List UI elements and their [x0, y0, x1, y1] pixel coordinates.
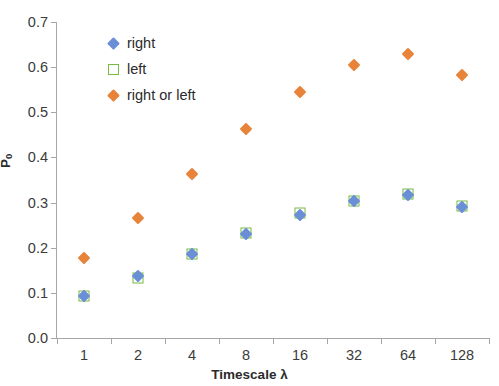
legend-marker-icon	[103, 39, 123, 48]
legend-item: right or left	[103, 82, 253, 108]
x-axis-tick	[381, 339, 382, 344]
x-axis-tick	[327, 339, 328, 344]
x-axis-tick-label: 2	[134, 347, 142, 363]
diamond-icon	[107, 89, 120, 102]
y-axis-tick-label: 0.2	[14, 240, 48, 256]
x-axis-tick-label: 1	[80, 347, 88, 363]
x-axis-tick-label: 32	[346, 347, 362, 363]
y-axis-tick-label: 0.1	[14, 285, 48, 301]
y-axis-title-main: P	[0, 159, 13, 168]
x-axis-tick-label: 128	[450, 347, 474, 363]
x-axis-tick	[489, 339, 490, 344]
legend-marker-icon	[103, 64, 123, 75]
y-axis-tick-label: 0.7	[14, 14, 48, 30]
x-axis-tick-label: 8	[242, 347, 250, 363]
legend-item-label: left	[123, 61, 146, 77]
x-axis-tick-label: 4	[188, 347, 196, 363]
legend-item-label: right or left	[123, 87, 196, 103]
y-axis-tick-label: 0.3	[14, 195, 48, 211]
legend-item: right	[103, 30, 253, 56]
chart-legend: rightleftright or left	[103, 30, 253, 108]
y-axis-tick-label: 0.4	[14, 149, 48, 165]
y-axis-title-subscript: 0	[3, 154, 14, 159]
open-square-icon	[108, 64, 119, 75]
y-axis-title: P0	[0, 154, 13, 168]
y-axis-tick-label: 0.5	[14, 104, 48, 120]
legend-item: left	[103, 56, 253, 82]
x-axis-tick-label: 64	[400, 347, 416, 363]
x-axis-tick-label: 16	[292, 347, 308, 363]
legend-marker-icon	[103, 91, 123, 100]
x-axis-title: Timescale λ	[0, 367, 499, 382]
x-axis-tick	[111, 339, 112, 344]
x-axis-tick	[219, 339, 220, 344]
x-axis-tick	[165, 339, 166, 344]
y-axis-tick-label: 0.0	[14, 330, 48, 346]
x-axis-tick	[273, 339, 274, 344]
diamond-icon	[107, 37, 120, 50]
y-axis-tick-label: 0.6	[14, 59, 48, 75]
x-axis-tick	[57, 339, 58, 344]
chart-figure: 0.00.10.20.30.40.50.60.7 1248163264128 P…	[0, 0, 499, 386]
x-axis-tick	[435, 339, 436, 344]
legend-item-label: right	[123, 35, 155, 51]
